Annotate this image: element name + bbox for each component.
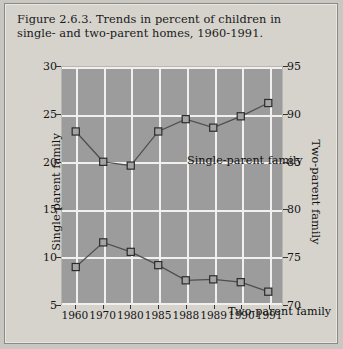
data-point-single-parent-1980 — [127, 162, 134, 169]
chart-canvas: Single-parent family Two-parent family S… — [5, 4, 339, 345]
x-axis-tick-1960: 1960 — [61, 309, 88, 321]
y-axis-right-tickmark — [283, 66, 288, 67]
y-axis-right-tick-70: 70 — [287, 299, 327, 312]
data-point-two-parent-1989 — [210, 276, 217, 283]
plot-area: Single-parent family Two-parent family — [61, 66, 283, 305]
data-point-two-parent-1991 — [265, 288, 272, 295]
data-point-two-parent-1960 — [72, 263, 79, 270]
data-point-two-parent-1985 — [155, 262, 162, 269]
y-axis-left-tickmark — [56, 114, 61, 115]
y-axis-right-tickmark — [283, 257, 288, 258]
data-point-single-parent-1960 — [72, 128, 79, 135]
x-axis-tickmark — [186, 305, 187, 309]
data-point-single-parent-1985 — [155, 128, 162, 135]
y-axis-left-tickmark — [56, 257, 61, 258]
y-axis-left-tick-10: 10 — [17, 251, 57, 264]
data-point-two-parent-1980 — [127, 248, 134, 255]
y-axis-left-tickmark — [56, 66, 61, 67]
y-axis-right-tickmark — [283, 305, 288, 306]
data-point-single-parent-1991 — [265, 99, 272, 106]
data-point-single-parent-1989 — [210, 124, 217, 131]
y-axis-left-tick-30: 30 — [17, 60, 57, 73]
y-axis-left-tickmark — [56, 305, 61, 306]
data-point-two-parent-1990 — [237, 279, 244, 286]
y-axis-right-tickmark — [283, 209, 288, 210]
data-point-single-parent-1970 — [100, 158, 107, 165]
data-point-two-parent-1970 — [100, 239, 107, 246]
figure-frame: Figure 2.6.3. Trends in percent of child… — [4, 3, 338, 344]
x-axis-tick-1989: 1989 — [200, 309, 227, 321]
data-point-single-parent-1988 — [182, 116, 189, 123]
x-axis-tickmark — [130, 305, 131, 309]
x-axis-tickmark — [103, 305, 104, 309]
series-markers-two-parent — [72, 239, 272, 295]
y-axis-left-tick-15: 15 — [17, 203, 57, 216]
x-axis-tickmark — [269, 305, 270, 309]
data-point-two-parent-1988 — [182, 277, 189, 284]
y-axis-left-tickmark — [56, 162, 61, 163]
x-axis-tick-1988: 1988 — [172, 309, 199, 321]
y-axis-right-tick-75: 75 — [287, 251, 327, 264]
data-point-single-parent-1990 — [237, 113, 244, 120]
x-axis-tick-1991: 1991 — [256, 309, 283, 321]
y-axis-left-tick-25: 25 — [17, 107, 57, 120]
x-axis-tick-1980: 1980 — [117, 309, 144, 321]
y-axis-left-tick-5: 5 — [17, 299, 57, 312]
y-axis-right-tick-80: 80 — [287, 203, 327, 216]
x-axis-tickmark — [158, 305, 159, 309]
y-axis-right-tickmark — [283, 162, 288, 163]
series-plot — [62, 67, 282, 304]
x-axis-tick-1990: 1990 — [228, 309, 255, 321]
y-axis-left-tick-20: 20 — [17, 155, 57, 168]
y-axis-right-tick-90: 90 — [287, 107, 327, 120]
y-axis-right-tick-95: 95 — [287, 60, 327, 73]
x-axis-tickmark — [75, 305, 76, 309]
x-axis-tick-1985: 1985 — [145, 309, 172, 321]
y-axis-right-tick-85: 85 — [287, 155, 327, 168]
x-axis-tickmark — [241, 305, 242, 309]
x-axis-tickmark — [214, 305, 215, 309]
y-axis-right-tickmark — [283, 114, 288, 115]
x-axis-tick-1970: 1970 — [89, 309, 116, 321]
y-axis-left-tickmark — [56, 209, 61, 210]
annotation-single-parent: Single-parent family — [187, 154, 303, 167]
